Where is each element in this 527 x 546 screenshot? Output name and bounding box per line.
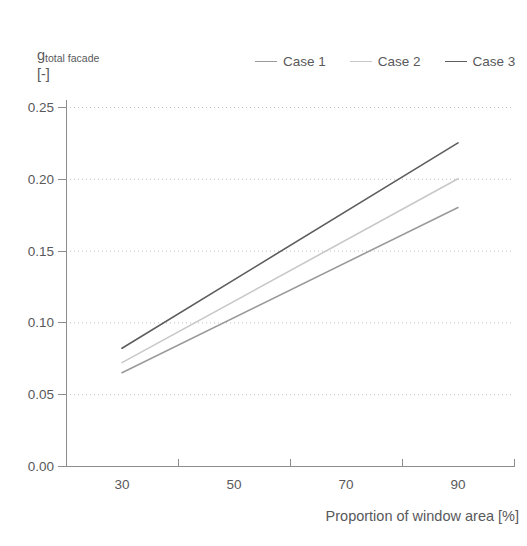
y-axis-title-unit: [-] bbox=[37, 66, 99, 83]
y-tick-mark bbox=[58, 322, 67, 323]
y-axis-line bbox=[66, 100, 67, 467]
x-axis-title: Proportion of window area [%] bbox=[0, 508, 519, 524]
y-tick-label: 0.00 bbox=[8, 459, 54, 474]
y-tick-mark bbox=[58, 251, 67, 252]
legend-line-swatch bbox=[255, 61, 277, 62]
y-axis-title-subscript: total facade bbox=[45, 52, 99, 64]
x-tick-label: 50 bbox=[204, 477, 264, 492]
legend-item-case-3: Case 3 bbox=[445, 54, 516, 69]
legend-label: Case 1 bbox=[283, 54, 326, 69]
x-tick-label: 90 bbox=[428, 477, 488, 492]
legend-label: Case 2 bbox=[378, 54, 421, 69]
plot-svg bbox=[66, 107, 514, 466]
line-chart: gtotal facade [-] Case 1Case 2Case 3 0.0… bbox=[0, 0, 527, 546]
x-tick-mark bbox=[402, 459, 403, 467]
y-tick-label: 0.10 bbox=[8, 315, 54, 330]
y-tick-label: 0.15 bbox=[8, 243, 54, 258]
y-axis-title: gtotal facade [-] bbox=[37, 47, 99, 83]
y-axis-title-main: g bbox=[37, 47, 45, 63]
x-tick-mark bbox=[178, 459, 179, 467]
x-tick-mark bbox=[66, 459, 67, 467]
y-tick-mark bbox=[58, 107, 67, 108]
x-tick-mark bbox=[290, 459, 291, 467]
y-tick-label: 0.20 bbox=[8, 171, 54, 186]
series-line-case-2 bbox=[122, 179, 458, 363]
y-tick-label: 0.05 bbox=[8, 387, 54, 402]
y-tick-mark bbox=[58, 179, 67, 180]
series-line-case-1 bbox=[122, 208, 458, 373]
y-tick-label: 0.25 bbox=[8, 100, 54, 115]
series-line-case-3 bbox=[122, 143, 458, 348]
plot-area bbox=[66, 107, 514, 466]
x-tick-mark bbox=[514, 459, 515, 467]
x-tick-label: 30 bbox=[92, 477, 152, 492]
legend-item-case-1: Case 1 bbox=[255, 54, 326, 69]
legend-item-case-2: Case 2 bbox=[350, 54, 421, 69]
legend-line-swatch bbox=[445, 61, 467, 62]
chart-legend: Case 1Case 2Case 3 bbox=[255, 52, 515, 70]
y-tick-mark bbox=[58, 394, 67, 395]
x-tick-label: 70 bbox=[316, 477, 376, 492]
legend-line-swatch bbox=[350, 61, 372, 62]
legend-label: Case 3 bbox=[473, 54, 516, 69]
